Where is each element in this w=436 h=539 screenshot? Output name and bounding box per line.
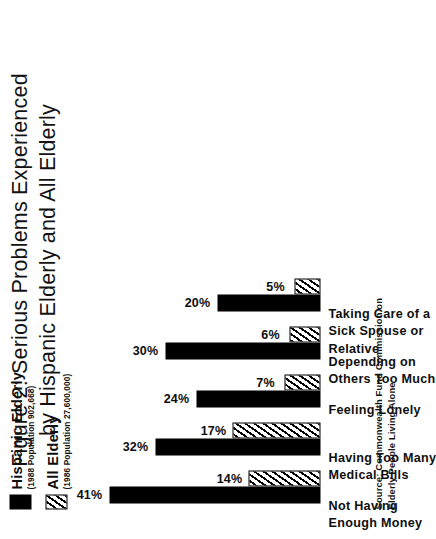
bar-all-elderly: 5% (294, 278, 320, 294)
legend-entry-all-elderly: All Elderly (1986 Population 27,600,000) (44, 373, 71, 509)
bar-value-label: 5% (266, 279, 284, 293)
bar-value-label: 30% (133, 344, 159, 358)
bar-value-label: 6% (261, 327, 279, 341)
legend-swatch-solid-icon (9, 494, 31, 509)
legend-label-hispanic-elderly: Hispanic Elderly (8, 371, 25, 489)
bar-hispanic-elderly: 24% (196, 390, 320, 407)
legend-label-all-elderly: All Elderly (44, 373, 61, 489)
legend-entry-hispanic-elderly: Hispanic Elderly (1988 Population 902,66… (8, 371, 35, 509)
bar-value-label: 41% (76, 488, 102, 502)
bar-all-elderly: 6% (289, 326, 320, 342)
bar-group: 20% 5% (88, 278, 320, 311)
bar-group: 24% 7% (88, 374, 320, 407)
bar-hispanic-elderly: 30% (165, 342, 320, 359)
bar-value-label: 20% (184, 296, 210, 310)
chart-legend: Hispanic Elderly (1988 Population 902,66… (8, 129, 78, 509)
bar-hispanic-elderly: 41% (109, 486, 320, 503)
bar-value-label: 7% (256, 375, 274, 389)
bar-group: 41% 14% (88, 470, 320, 503)
bar-group: 32% 17% (88, 422, 320, 455)
bar-value-label: 24% (163, 392, 189, 406)
source-note: Source: Commonwealth Fund Commission on … (372, 89, 397, 509)
bar-all-elderly: 17% (232, 422, 320, 438)
legend-sublabel-all-elderly: (1986 Population 27,600,000) (62, 373, 72, 489)
plot-area: 41% 14% 32% 17% 24% 7% (88, 129, 320, 509)
bar-value-label: 14% (216, 471, 242, 485)
bar-hispanic-elderly: 20% (217, 294, 320, 311)
bar-all-elderly: 7% (284, 374, 320, 390)
bar-value-label: 17% (201, 423, 227, 437)
bar-all-elderly: 14% (248, 470, 320, 486)
legend-swatch-hatch-icon (45, 494, 67, 509)
legend-sublabel-hispanic-elderly: (1988 Population 902,668) (26, 371, 36, 489)
bar-group: 30% 6% (88, 326, 320, 359)
bar-value-label: 32% (122, 440, 148, 454)
bar-hispanic-elderly: 32% (155, 438, 320, 455)
